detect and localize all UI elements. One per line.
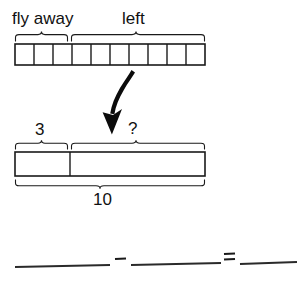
curved-down-arrow-icon (103, 70, 135, 135)
top-brace-fly-away (16, 32, 68, 42)
equation-blank-1[interactable] (15, 265, 110, 267)
worksheet-canvas: fly away left 3 ? 10 (0, 0, 297, 298)
top-brace-left (72, 32, 205, 42)
bottom-brace-total (16, 180, 205, 189)
equation-row (15, 254, 297, 268)
top-bar (15, 44, 205, 65)
bottom-bar (15, 152, 205, 176)
equation-blank-2[interactable] (131, 263, 221, 265)
equation-blank-3[interactable] (240, 262, 297, 264)
bottom-brace-part-3 (16, 140, 68, 149)
equals-operator-icon-top (224, 254, 235, 255)
bottom-brace-part-unknown (72, 140, 205, 149)
minus-operator-icon (115, 259, 126, 260)
equals-operator-icon-bottom (224, 259, 235, 260)
diagram-vectors (0, 0, 297, 298)
